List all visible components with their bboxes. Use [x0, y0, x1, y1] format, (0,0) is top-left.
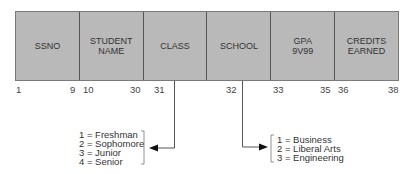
class-codes-legend: 1 = Freshman 2 = Sophomore 3 = Junior 4 …: [79, 130, 144, 166]
school-codes-legend: 1 = Business 2 = Liberal Arts 3 = Engine…: [277, 135, 344, 162]
arrow-right-icon: [259, 144, 268, 151]
arrow-left-icon: [149, 145, 158, 152]
connector-lines: [0, 0, 412, 174]
